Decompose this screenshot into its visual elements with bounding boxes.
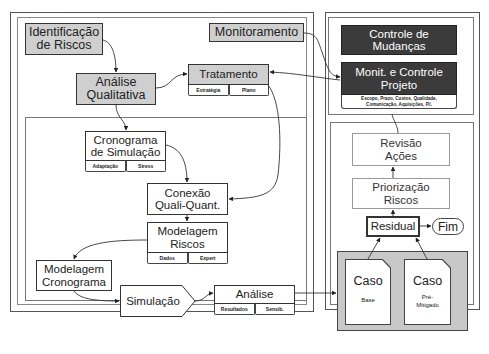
conexao-line1: Conexão — [164, 187, 210, 199]
cronograma-sub-adaptacao[interactable]: Adaptação — [85, 161, 126, 172]
node-priorizacao-riscos[interactable]: Priorização Riscos — [352, 178, 450, 209]
monit-controle-line2: Projeto — [381, 79, 417, 91]
node-caso-base[interactable]: Caso Base — [345, 259, 391, 325]
scope-line2: Comunicação, Aquisições, P.I. — [344, 102, 454, 108]
fim-label: Fim — [438, 220, 458, 234]
node-cronograma-simulacao[interactable]: Cronograma de Simulação Adaptação Stress — [85, 131, 166, 172]
node-revisao-acoes[interactable]: Revisão Ações — [352, 133, 450, 166]
simulacao-label: Simulação — [126, 295, 180, 307]
cronograma-simulacao-line1: Cronograma — [94, 134, 158, 146]
caso-base-sub: Base — [346, 297, 390, 305]
node-tratamento[interactable]: Tratamento Estratégia Plano — [188, 64, 269, 96]
node-monitoramento[interactable]: Monitoramento — [209, 23, 304, 42]
node-controle-mudancas[interactable]: Controle de Mudanças — [341, 25, 457, 55]
modelagem-riscos-subcells: Dados Expert — [147, 253, 228, 264]
caso-pre-mitigado-sub-line1: Pré- — [405, 294, 450, 302]
modelagem-cronograma-line2: Cronograma — [42, 276, 106, 288]
identificacao-line2: de Riscos — [37, 39, 92, 52]
monitoramento-label: Monitoramento — [215, 26, 298, 39]
monit-controle-title: Monit. e Controle Projeto — [341, 62, 457, 95]
node-simulacao[interactable]: Simulação — [120, 285, 186, 317]
node-identificacao-riscos[interactable]: Identificação de Riscos — [25, 23, 103, 55]
monit-controle-line1: Monit. e Controle — [355, 66, 443, 78]
caso-base-page: Caso Base — [346, 260, 390, 324]
residual-label: Residual — [371, 220, 416, 232]
tratamento-title: Tratamento — [188, 64, 269, 85]
modelagem-sub-expert[interactable]: Expert — [188, 253, 229, 264]
analise-subcells: Resultados Sensib. — [214, 304, 295, 315]
revisao-line1: Revisão — [380, 137, 422, 149]
analise-sub-resultados[interactable]: Resultados — [214, 304, 255, 315]
node-analise[interactable]: Análise Resultados Sensib. — [214, 285, 295, 315]
cronograma-simulacao-title: Cronograma de Simulação — [85, 131, 166, 161]
node-monit-controle-projeto[interactable]: Monit. e Controle Projeto Escopo, Prazo,… — [341, 62, 457, 109]
analise-label: Análise — [236, 288, 274, 300]
node-conexao-quali-quant[interactable]: Conexão Quali-Quant. — [147, 183, 228, 215]
tratamento-sub-plano[interactable]: Plano — [229, 85, 270, 96]
analise-title: Análise — [214, 285, 295, 304]
node-modelagem-cronograma[interactable]: Modelagem Cronograma — [36, 260, 112, 291]
modelagem-riscos-line2: Riscos — [170, 238, 205, 250]
node-residual[interactable]: Residual — [366, 216, 420, 237]
cronograma-subcells: Adaptação Stress — [85, 161, 166, 172]
revisao-line2: Ações — [385, 150, 417, 162]
cronograma-simulacao-line2: de Simulação — [91, 146, 161, 158]
modelagem-cronograma-line1: Modelagem — [44, 263, 104, 275]
cronograma-sub-stress[interactable]: Stress — [126, 161, 167, 172]
priorizacao-line2: Riscos — [384, 194, 419, 206]
node-fim[interactable]: Fim — [432, 218, 464, 235]
caso-pre-mitigado-page: Caso Pré- Mitigado — [405, 260, 450, 324]
analise-qualitativa-line2: Qualitativa — [86, 89, 145, 102]
tratamento-sub-estrategia[interactable]: Estratégia — [188, 85, 229, 96]
caso-pre-mitigado-sub-line2: Mitigado — [405, 302, 450, 310]
controle-mudancas-line2: Mudanças — [372, 40, 425, 52]
modelagem-riscos-title: Modelagem Riscos — [147, 222, 228, 253]
caso-pre-mitigado-title: Caso — [405, 274, 450, 288]
node-analise-qualitativa[interactable]: Análise Qualitativa — [76, 73, 156, 105]
priorizacao-line1: Priorização — [372, 181, 430, 193]
conexao-line2: Quali-Quant. — [155, 199, 220, 211]
tratamento-label: Tratamento — [199, 68, 257, 80]
controle-mudancas-line1: Controle de — [369, 28, 428, 40]
tratamento-subcells: Estratégia Plano — [188, 85, 269, 96]
node-modelagem-riscos[interactable]: Modelagem Riscos Dados Expert — [147, 222, 228, 264]
node-caso-pre-mitigado[interactable]: Caso Pré- Mitigado — [404, 259, 451, 325]
analise-sub-sensib[interactable]: Sensib. — [255, 304, 296, 315]
caso-base-title: Caso — [346, 274, 390, 288]
caso-pre-mitigado-sub: Pré- Mitigado — [405, 294, 450, 310]
modelagem-riscos-line1: Modelagem — [157, 225, 217, 237]
monit-controle-scope: Escopo, Prazo, Custos, Qualidade, Comuni… — [341, 95, 457, 109]
modelagem-sub-dados[interactable]: Dados — [147, 253, 188, 264]
